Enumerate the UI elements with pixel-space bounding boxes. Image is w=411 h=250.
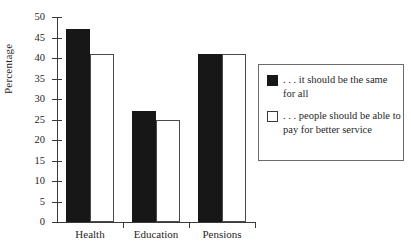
- y-axis-tick: [52, 120, 62, 121]
- y-axis-tick: [52, 202, 62, 203]
- y-axis-tick-label: 25: [23, 112, 45, 128]
- bar: [66, 29, 90, 222]
- y-axis-tick-label: 0: [23, 214, 45, 230]
- filled-square-icon: [267, 75, 278, 86]
- y-axis-tick-label: 30: [23, 91, 45, 107]
- y-axis-tick: [52, 79, 62, 80]
- y-axis-tick-label: 35: [23, 71, 45, 87]
- y-axis-tick: [52, 38, 62, 39]
- legend-item-label: . . . people should be able to pay for b…: [283, 109, 401, 136]
- bar: [156, 120, 180, 223]
- y-axis-tick: [52, 161, 62, 162]
- bar: [222, 54, 246, 222]
- y-axis-tick: [52, 99, 62, 100]
- y-axis-title: Percentage: [2, 0, 18, 94]
- y-axis-tick-label: 15: [23, 153, 45, 169]
- y-axis-tick: [52, 222, 62, 223]
- x-axis-tick: [255, 222, 256, 228]
- bar-chart-figure: Percentage 05101520253035404550 HealthEd…: [0, 0, 411, 250]
- y-axis-tick-label: 45: [23, 30, 45, 46]
- legend-item-same-for-all: . . . it should be the same for all: [267, 73, 403, 100]
- bar: [198, 54, 222, 222]
- y-axis-tick-label: 5: [23, 194, 45, 210]
- plot-area: 05101520253035404550 HealthEducationPens…: [57, 17, 255, 222]
- x-axis-category-label: Pensions: [189, 228, 255, 240]
- legend-item-pay-for-better: . . . people should be able to pay for b…: [267, 109, 403, 136]
- x-axis-category-label: Health: [57, 228, 123, 240]
- y-axis-tick-label: 10: [23, 173, 45, 189]
- y-axis-tick-label: 40: [23, 50, 45, 66]
- y-axis-tick: [52, 181, 62, 182]
- chart-legend: . . . it should be the same for all . . …: [258, 64, 404, 161]
- bar: [90, 54, 114, 222]
- y-axis-tick: [52, 140, 62, 141]
- y-axis-tick: [52, 17, 62, 18]
- y-axis-tick-label: 20: [23, 132, 45, 148]
- x-axis-line: [57, 222, 256, 223]
- y-axis-tick-label: 50: [23, 9, 45, 25]
- legend-item-label: . . . it should be the same for all: [283, 73, 401, 100]
- y-axis-tick: [52, 58, 62, 59]
- bar: [132, 111, 156, 222]
- open-square-icon: [267, 111, 278, 122]
- x-axis-category-label: Education: [123, 228, 189, 240]
